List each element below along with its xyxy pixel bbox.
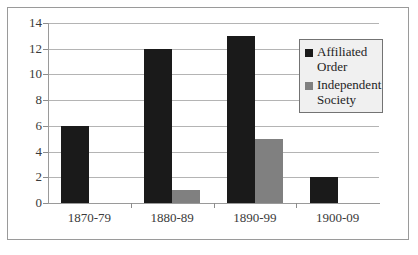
bar-affiliated-order-1890-99 [227, 36, 255, 203]
x-tick-mark [214, 203, 215, 208]
bar-independent-society-1890-99 [255, 139, 283, 203]
bar-affiliated-order-1880-89 [144, 49, 172, 203]
legend-label-line2: Order [317, 60, 367, 75]
legend-label-line1: Independent [317, 78, 381, 93]
y-tick-label: 6 [8, 119, 48, 132]
y-tick-label: 2 [8, 170, 48, 183]
gridline [48, 152, 379, 153]
y-tick-label: 8 [8, 93, 48, 106]
y-tick-label: 4 [8, 145, 48, 158]
x-tick-mark [296, 203, 297, 208]
gridline [48, 23, 379, 24]
bar-independent-society-1880-89 [172, 190, 200, 203]
independent-swatch-icon [305, 82, 313, 90]
legend-entry: AffiliatedOrder [305, 45, 377, 74]
legend-label-line2: Society [317, 93, 381, 108]
category-label: 1900-09 [296, 211, 379, 225]
chart-frame: 02468101214 1870-791880-891890-991900-09… [7, 7, 409, 240]
x-tick-mark [131, 203, 132, 208]
category-label: 1880-89 [131, 211, 214, 225]
y-tick-label: 12 [8, 42, 48, 55]
bar-affiliated-order-1870-79 [61, 126, 89, 203]
gridline [48, 126, 379, 127]
legend-label-line1: Affiliated [317, 45, 367, 60]
y-axis-line [48, 23, 49, 204]
chart-legend: AffiliatedOrderIndependentSociety [299, 39, 383, 113]
legend-entry: IndependentSociety [305, 78, 377, 107]
bar-affiliated-order-1900-09 [310, 177, 338, 203]
legend-label: IndependentSociety [317, 78, 381, 107]
y-tick-label: 10 [8, 67, 48, 80]
category-label: 1870-79 [48, 211, 131, 225]
y-tick-label: 14 [8, 16, 48, 29]
legend-label: AffiliatedOrder [317, 45, 367, 74]
y-tick-label: 0 [8, 196, 48, 209]
category-label: 1890-99 [214, 211, 297, 225]
affiliated-swatch-icon [305, 49, 313, 57]
